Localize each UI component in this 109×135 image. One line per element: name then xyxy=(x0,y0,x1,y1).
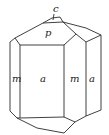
face-label-m-right: m xyxy=(70,74,79,84)
crystal-diagram: c p m a m a xyxy=(0,0,109,135)
face-label-a-right: a xyxy=(89,74,95,84)
face-label-c: c xyxy=(53,4,59,14)
face-label-p: p xyxy=(45,28,51,38)
crystal-outline xyxy=(0,0,109,135)
face-label-a-front: a xyxy=(40,74,46,84)
face-label-m-left: m xyxy=(12,74,21,84)
